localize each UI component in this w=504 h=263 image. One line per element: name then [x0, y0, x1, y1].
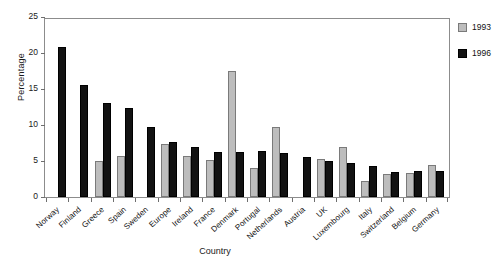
bar-group [225, 19, 247, 197]
bar-group [403, 19, 425, 197]
legend-label: 1993 [472, 22, 491, 32]
bar-group [47, 19, 69, 197]
bar-group [425, 19, 447, 197]
legend-swatch-icon [458, 23, 467, 32]
x-tick-mark [314, 198, 315, 202]
bar-group [291, 19, 313, 197]
y-axis-title: Percentage [16, 32, 26, 122]
bar-1993 [428, 165, 436, 197]
bar-1996 [369, 166, 377, 197]
bar-1996 [103, 103, 111, 197]
y-tick-label: 10 [29, 119, 38, 129]
bar-1996 [214, 152, 222, 197]
bar-1996 [58, 47, 66, 197]
bar-1996 [280, 153, 288, 197]
y-tick-mark [41, 17, 45, 18]
y-tick-label: 25 [29, 11, 38, 21]
y-tick-label: 0 [33, 191, 38, 201]
bar-1993 [406, 173, 414, 197]
bar-group [336, 19, 358, 197]
bar-1996 [303, 157, 311, 197]
x-axis-label: Italy [356, 205, 373, 222]
bar-1993 [272, 127, 280, 197]
bar-group [203, 19, 225, 197]
bar-1996 [391, 172, 399, 197]
bar-group [380, 19, 402, 197]
bar-1993 [383, 174, 391, 197]
x-tick-mark-end [447, 198, 448, 202]
bar-1993 [361, 181, 369, 197]
bar-1993 [95, 161, 103, 197]
bar-1993 [117, 156, 125, 197]
x-tick-mark [113, 198, 114, 202]
bar-1996 [436, 171, 444, 197]
bar-1996 [414, 171, 422, 197]
x-tick-mark [247, 198, 248, 202]
x-tick-mark [135, 198, 136, 202]
bar-group [136, 19, 158, 197]
x-tick-mark [381, 198, 382, 202]
plot-area: 0510152025 [44, 18, 450, 198]
bar-group [247, 19, 269, 197]
bar-1993 [206, 160, 214, 197]
chart-legend: 19931996 [458, 22, 491, 58]
legend-swatch-icon [458, 49, 467, 58]
y-tick-label: 5 [33, 155, 38, 165]
bar-group [314, 19, 336, 197]
y-tick-label: 20 [29, 47, 38, 57]
bar-1996 [191, 147, 199, 197]
bar-1996 [236, 152, 244, 197]
bar-1996 [80, 85, 88, 197]
x-tick-mark [336, 198, 337, 202]
bar-group [158, 19, 180, 197]
bar-group [180, 19, 202, 197]
x-tick-mark [359, 198, 360, 202]
bar-1993 [250, 168, 258, 197]
bar-chart: Percentage 0510152025 NorwayFinlandGreec… [0, 0, 504, 263]
bar-1993 [317, 159, 325, 197]
bar-group [358, 19, 380, 197]
x-tick-mark [68, 198, 69, 202]
x-tick-mark [91, 198, 92, 202]
bar-series-container [45, 19, 449, 197]
x-tick-mark [46, 198, 47, 202]
legend-label: 1996 [472, 48, 491, 58]
bar-1993 [161, 144, 169, 197]
bar-1993 [183, 156, 191, 197]
x-tick-mark [403, 198, 404, 202]
legend-item-1993: 1993 [458, 22, 491, 32]
x-tick-mark [202, 198, 203, 202]
x-tick-mark [269, 198, 270, 202]
bar-group [69, 19, 91, 197]
x-tick-mark [158, 198, 159, 202]
bar-1996 [325, 161, 333, 197]
bar-group [269, 19, 291, 197]
x-tick-mark [426, 198, 427, 202]
bar-group [91, 19, 113, 197]
x-tick-mark [225, 198, 226, 202]
x-tick-mark [292, 198, 293, 202]
x-tick-mark [180, 198, 181, 202]
legend-item-1996: 1996 [458, 48, 491, 58]
bar-1996 [147, 127, 155, 197]
x-axis-title: Country [0, 246, 430, 256]
bar-group [114, 19, 136, 197]
bar-1996 [347, 163, 355, 197]
bar-1993 [339, 147, 347, 197]
bar-1996 [258, 151, 266, 197]
x-axis-label: Norway [35, 205, 62, 230]
bar-1993 [228, 71, 236, 197]
bar-1996 [125, 108, 133, 197]
bar-1996 [169, 142, 177, 197]
y-tick-label: 15 [29, 83, 38, 93]
x-axis-label: UK [315, 205, 329, 219]
